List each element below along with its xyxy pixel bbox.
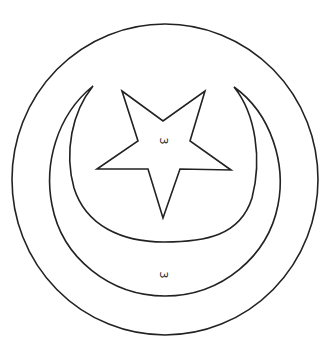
- star-shape[interactable]: [97, 91, 231, 218]
- star-region-number: 3: [158, 138, 169, 145]
- star-and-crescent-drawing: [0, 0, 327, 360]
- crescent-region-number: 3: [158, 272, 169, 279]
- crescent-shape[interactable]: [50, 86, 281, 296]
- outer-circle: [12, 24, 318, 335]
